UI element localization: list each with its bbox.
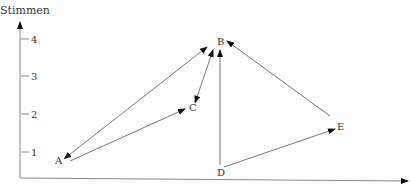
node-b: B — [217, 36, 224, 47]
edge-c-b — [197, 50, 213, 97]
svg-text:3: 3 — [31, 71, 37, 82]
node-d: D — [217, 167, 225, 178]
edges — [69, 41, 335, 167]
x-axis — [20, 178, 408, 181]
svg-text:1: 1 — [31, 147, 37, 158]
edge-d-e — [224, 129, 335, 167]
edge-a-b — [69, 47, 207, 155]
node-a: A — [54, 155, 63, 166]
node-e: E — [337, 121, 344, 132]
svg-text:2: 2 — [31, 109, 37, 120]
diagram: Stimmen 4 3 2 1 A B C D E — [0, 0, 411, 187]
edge-e-b — [227, 41, 330, 116]
svg-text:4: 4 — [31, 34, 37, 45]
node-c: C — [189, 102, 197, 113]
y-ticks: 4 3 2 1 — [21, 34, 37, 158]
node-labels: A B C D E — [54, 36, 344, 178]
edge-a-c — [70, 109, 185, 161]
y-axis-label: Stimmen — [0, 4, 50, 17]
